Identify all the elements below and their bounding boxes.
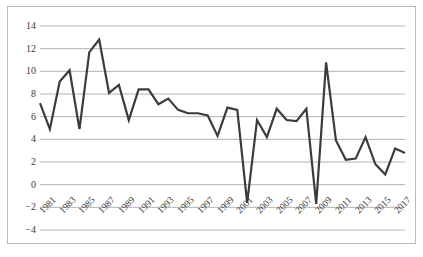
chart-figure: −4−202468101214 198119831985198719891991…: [0, 0, 423, 257]
y-tick-label: 12: [12, 44, 36, 54]
y-tick-label: 10: [12, 66, 36, 76]
y-tick-label: 2: [12, 157, 36, 167]
y-tick-label: 0: [12, 180, 36, 190]
y-tick-label: 4: [12, 134, 36, 144]
data-line: [40, 40, 405, 204]
y-tick-label: 6: [12, 112, 36, 122]
y-tick-label: −4: [12, 225, 36, 235]
y-tick-label: 8: [12, 89, 36, 99]
data-series-group: [40, 40, 405, 204]
y-tick-label: 14: [12, 21, 36, 31]
y-tick-label: −2: [12, 202, 36, 212]
line-chart-plot: [0, 0, 423, 257]
